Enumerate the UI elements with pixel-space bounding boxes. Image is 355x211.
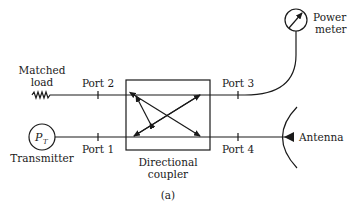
power-meter-label-1: Power xyxy=(313,11,347,23)
matched-load-label-1: Matched xyxy=(19,64,66,76)
port4-label: Port 4 xyxy=(222,143,255,155)
antenna-feed-icon xyxy=(284,132,294,142)
figure-caption: (a) xyxy=(161,189,175,201)
port1-label: Port 1 xyxy=(82,143,114,155)
transmitter-label: Transmitter xyxy=(10,152,74,164)
resistor-icon xyxy=(32,92,52,98)
transmitter-subscript: T xyxy=(43,138,49,146)
transmitter-symbol: P xyxy=(34,131,43,144)
coupler-label-2: coupler xyxy=(148,168,189,180)
port2-label: Port 2 xyxy=(82,77,114,89)
power-meter-label-2: meter xyxy=(315,23,348,35)
directional-coupler-diagram: Matched load Port 2 Port 3 Port 1 Port 4… xyxy=(0,0,355,211)
matched-load-label-2: load xyxy=(31,76,54,88)
antenna-label: Antenna xyxy=(298,131,344,143)
coupler-label-1: Directional xyxy=(138,156,198,168)
port3-label: Port 3 xyxy=(222,77,254,89)
power-meter-needle xyxy=(289,13,302,28)
